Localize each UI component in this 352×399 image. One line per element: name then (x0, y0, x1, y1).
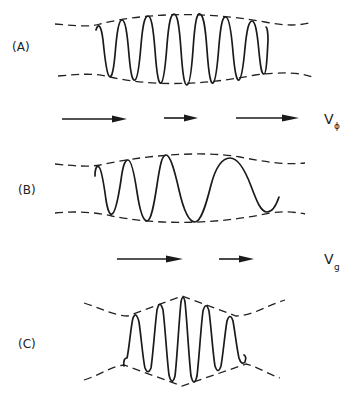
panel-b-envelope-bottom (55, 212, 305, 222)
panel-a: (A) (12, 14, 312, 85)
panel-b-label: (B) (18, 183, 36, 197)
group-velocity-subscript: g (334, 262, 340, 272)
panel-b-envelope-top (55, 154, 305, 166)
panel-c: (C) (18, 296, 285, 386)
panel-a-envelope-top (55, 15, 312, 26)
phase-velocity-subscript: ϕ (334, 121, 340, 131)
phase-velocity-row: V ϕ (62, 111, 340, 131)
panel-b: (B) (18, 154, 305, 222)
panel-c-envelope-bottom (84, 364, 280, 386)
panel-a-label: (A) (12, 40, 30, 54)
panel-c-carrier-wave (124, 298, 246, 383)
wave-packet-figure: (A) V ϕ (B) (0, 0, 352, 399)
group-velocity-label: V (324, 251, 334, 267)
group-velocity-row: V g (117, 251, 340, 272)
phase-velocity-arrow-2 (164, 115, 198, 122)
panel-c-label: (C) (18, 337, 36, 351)
group-velocity-arrow-1 (117, 256, 183, 263)
panel-a-carrier-wave (96, 14, 268, 85)
group-velocity-arrow-2 (219, 256, 254, 263)
panel-b-carrier-wave (95, 155, 279, 222)
phase-velocity-arrow-3 (236, 115, 299, 122)
phase-velocity-label: V (324, 111, 334, 127)
phase-velocity-arrow-1 (62, 116, 127, 123)
